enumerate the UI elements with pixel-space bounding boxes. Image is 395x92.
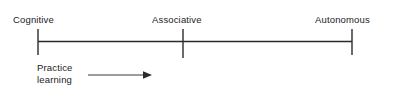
rightward-arrow-icon — [88, 71, 152, 79]
practice-learning-annotation: Practice learning — [37, 62, 73, 85]
skill-acquisition-diagram: Cognitive Associative Autonomous Practic… — [0, 0, 395, 92]
annotation-line-2: learning — [37, 74, 73, 86]
arrow-head — [143, 71, 152, 79]
stage-label-associative: Associative — [152, 14, 202, 25]
stage-label-autonomous: Autonomous — [315, 14, 370, 25]
annotation-line-1: Practice — [37, 62, 73, 74]
stage-label-cognitive: Cognitive — [13, 14, 54, 25]
